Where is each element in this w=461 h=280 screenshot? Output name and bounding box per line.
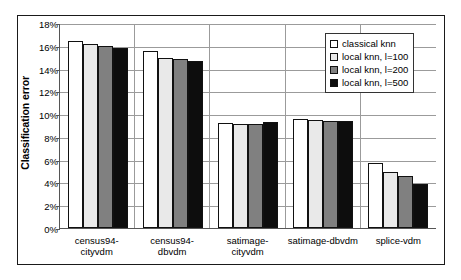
bar[interactable] (113, 48, 128, 228)
legend-label: local knn, l=500 (342, 77, 408, 88)
bar[interactable] (383, 172, 398, 228)
legend-item[interactable]: classical knn (330, 37, 408, 50)
x-axis-tick-labels: census94-cityvdmcensus94-dbvdmsatimage-c… (59, 232, 436, 264)
bar[interactable] (218, 123, 233, 228)
bar[interactable] (308, 120, 323, 228)
x-tick-label: satimage-dbvdm (285, 232, 360, 264)
bar[interactable] (83, 44, 98, 229)
bar[interactable] (158, 58, 173, 228)
y-axis-tick-labels: 18%16%14%12%10%8%6%4%2%0% (32, 16, 58, 229)
bar[interactable] (233, 124, 248, 228)
x-tick-label: census94-cityvdm (59, 232, 134, 264)
x-tick-label: splice-vdm (361, 232, 436, 264)
bar[interactable] (323, 121, 338, 228)
legend-item[interactable]: local knn, l=200 (330, 63, 408, 76)
bar[interactable] (398, 176, 413, 228)
bar-chart: Classification error 18%16%14%12%10%8%6%… (17, 15, 445, 265)
y-axis-title-text: Classification error (19, 76, 31, 170)
bar[interactable] (173, 59, 188, 228)
chart-legend: classical knnlocal knn, l=100local knn, … (325, 33, 414, 93)
x-tick-label: census94-dbvdm (134, 232, 209, 264)
bar[interactable] (263, 122, 278, 228)
bar[interactable] (68, 41, 83, 228)
bar[interactable] (143, 51, 158, 228)
bar[interactable] (338, 121, 353, 228)
bar[interactable] (188, 61, 203, 228)
legend-label: local knn, l=100 (342, 51, 408, 62)
legend-color-swatch (330, 40, 338, 48)
bar-group (135, 24, 210, 228)
bar-group (210, 24, 285, 228)
bar[interactable] (248, 124, 263, 228)
legend-color-swatch (330, 66, 338, 74)
bar[interactable] (413, 184, 428, 228)
legend-color-swatch (330, 53, 338, 61)
bar[interactable] (98, 46, 113, 228)
x-tick-label: satimage-cityvdm (210, 232, 285, 264)
legend-item[interactable]: local knn, l=100 (330, 50, 408, 63)
bar[interactable] (368, 163, 383, 228)
y-tick-mark (56, 229, 60, 230)
legend-color-swatch (330, 79, 338, 87)
legend-label: local knn, l=200 (342, 64, 408, 75)
legend-item[interactable]: local knn, l=500 (330, 76, 408, 89)
bar[interactable] (293, 119, 308, 228)
y-axis-title: Classification error (17, 16, 33, 229)
legend-label: classical knn (342, 38, 396, 49)
bar-group (60, 24, 135, 228)
